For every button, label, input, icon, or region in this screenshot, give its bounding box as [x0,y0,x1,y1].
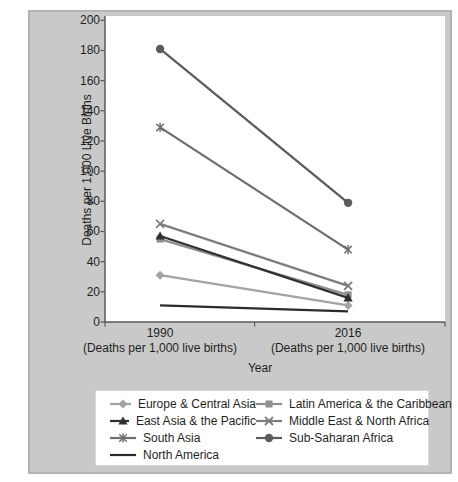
legend-item-latin-america-caribbean: Latin America & the Caribbean [256,397,452,411]
marker-line-icon [110,449,136,461]
legend-item-south-asia: South Asia [110,431,256,445]
y-tick-label: 200 [55,13,100,27]
chart-legend: Europe & Central Asia Latin America & th… [95,390,429,466]
page: 020406080100120140160180200 Deaths per 1… [0,0,458,482]
marker-asterisk-icon [110,432,136,444]
marker-triangle-icon [110,415,129,427]
x-axis-title: Year [105,361,415,375]
legend-item-east-asia-pacific: East Asia & the Pacific [110,414,256,428]
category-sublabel-1990: (Deaths per 1,000 live births) [55,341,265,356]
marker-diamond-icon [110,398,131,410]
marker-circle-icon [256,432,282,444]
legend-label: Middle East & North Africa [289,414,429,428]
y-tick-label: 20 [55,285,100,299]
legend-label: East Asia & the Pacific [136,414,256,428]
category-sublabel-2016: (Deaths per 1,000 live births) [243,341,453,356]
marker-square-icon [256,398,282,410]
category-label-2016: 2016 (Deaths per 1,000 live births) [243,326,453,356]
y-tick-label: 180 [55,43,100,57]
category-label-1990: 1990 (Deaths per 1,000 live births) [55,326,265,356]
legend-label: North America [143,448,219,462]
legend-item-north-america: North America [110,448,256,462]
category-year-1990: 1990 [55,326,265,341]
category-year-2016: 2016 [243,326,453,341]
legend-item-middle-east-north-africa: Middle East & North Africa [256,414,452,428]
y-axis-title: Deaths per 1,000 Live Births [80,70,94,270]
legend-label: Latin America & the Caribbean [289,397,452,411]
chart-figure: 020406080100120140160180200 Deaths per 1… [28,10,452,474]
legend-item-europe-central-asia: Europe & Central Asia [110,397,256,411]
legend-label: Europe & Central Asia [138,397,256,411]
legend-label: Sub-Saharan Africa [289,431,393,445]
legend-item-sub-saharan-africa: Sub-Saharan Africa [256,431,452,445]
legend-label: South Asia [143,431,200,445]
marker-x-icon [256,415,282,427]
